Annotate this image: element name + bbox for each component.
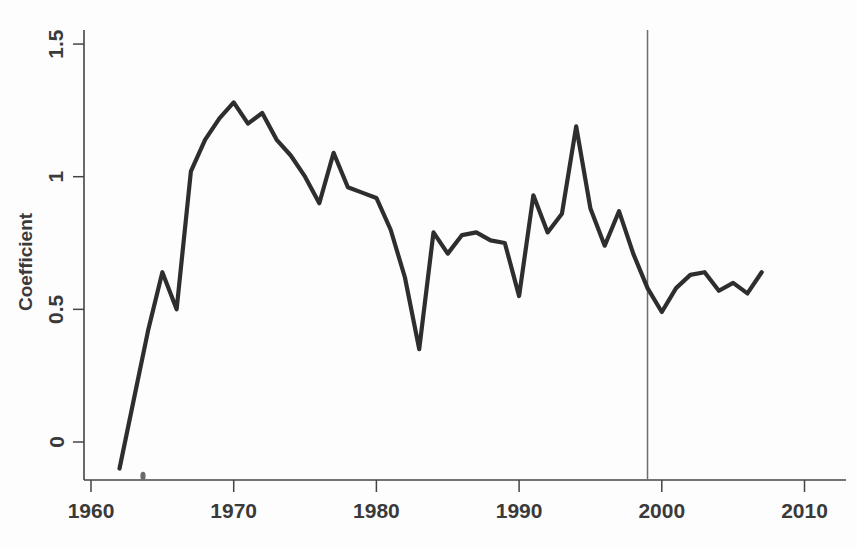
coefficient-series-line [120,102,762,468]
x-axis-tick-labels: 196019701980199020002010 [68,499,828,522]
x-tick-label-1970: 1970 [210,499,257,522]
x-tick-label-1990: 1990 [496,499,543,522]
y-tick-label-1.5: 1.5 [45,29,68,59]
x-tick-label-2000: 2000 [638,499,685,522]
x-tick-label-1960: 1960 [68,499,115,522]
y-axis-tick-labels: 00.511.5 [45,29,68,448]
y-axis-tick-marks [73,44,84,442]
x-tick-label-2010: 2010 [781,499,828,522]
y-tick-label-0.5: 0.5 [45,294,68,324]
x-axis-tick-marks [91,480,805,492]
chart-figure: 00.511.5 196019701980199020002010 Coeffi… [0,0,857,549]
scan-artifact-speck [140,472,145,480]
y-tick-label-1: 1 [45,171,68,183]
y-axis-title: Coefficient [15,212,36,311]
line-chart-canvas: 00.511.5 196019701980199020002010 Coeffi… [0,0,857,549]
y-tick-label-0: 0 [45,436,68,448]
x-tick-label-1980: 1980 [353,499,400,522]
